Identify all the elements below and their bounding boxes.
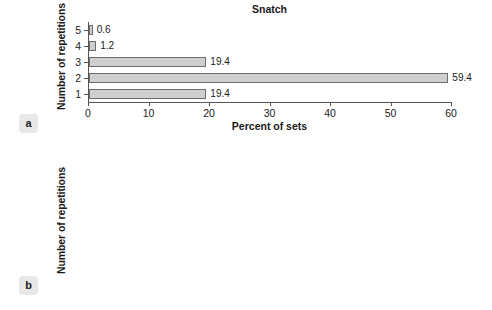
x-tick <box>209 102 210 106</box>
y-tick <box>84 46 88 47</box>
y-tick <box>84 94 88 95</box>
x-axis-title-a: Percent of sets <box>232 120 307 132</box>
y-tick <box>84 30 88 31</box>
y-tick-label: 5 <box>75 24 81 36</box>
y-axis-title-b: Number of repetitions <box>55 167 67 274</box>
figure-panel-b: b Number of repetitions Clean and jerk P… <box>0 155 492 310</box>
y-tick <box>84 78 88 79</box>
x-tick-label: 50 <box>385 107 397 119</box>
panel-label-a: a <box>19 114 38 133</box>
x-tick-label: 0 <box>85 107 91 119</box>
bar-2 <box>89 73 448 83</box>
figure-panel-a: a Number of repetitions Snatch Percent o… <box>0 0 492 155</box>
bar-value-label: 0.6 <box>97 24 111 35</box>
bar-chart-snatch: Snatch Percent of sets 19.4159.4219.431.… <box>88 22 451 102</box>
x-tick <box>391 102 392 106</box>
bar-value-label: 19.4 <box>210 88 229 99</box>
x-tick-label: 10 <box>143 107 155 119</box>
x-tick-label: 30 <box>264 107 276 119</box>
x-tick-label: 60 <box>445 107 457 119</box>
bar-3 <box>89 57 206 67</box>
x-tick <box>88 102 89 106</box>
x-tick <box>451 102 452 106</box>
x-tick-label: 40 <box>324 107 336 119</box>
bar-1 <box>89 89 206 99</box>
y-tick-label: 4 <box>75 40 81 52</box>
y-tick-label: 1 <box>75 88 81 100</box>
y-tick-label: 2 <box>75 72 81 84</box>
chart-title-a: Snatch <box>252 3 287 15</box>
x-tick <box>270 102 271 106</box>
bar-5 <box>89 25 93 35</box>
x-tick-label: 20 <box>203 107 215 119</box>
y-tick-label: 3 <box>75 56 81 68</box>
bar-value-label: 19.4 <box>210 56 229 67</box>
y-tick <box>84 62 88 63</box>
x-tick <box>330 102 331 106</box>
bar-value-label: 1.2 <box>100 40 114 51</box>
bar-4 <box>89 41 96 51</box>
x-tick <box>149 102 150 106</box>
panel-label-b: b <box>19 276 38 295</box>
bar-value-label: 59.4 <box>452 72 471 83</box>
y-axis-title-a: Number of repetitions <box>55 3 67 110</box>
